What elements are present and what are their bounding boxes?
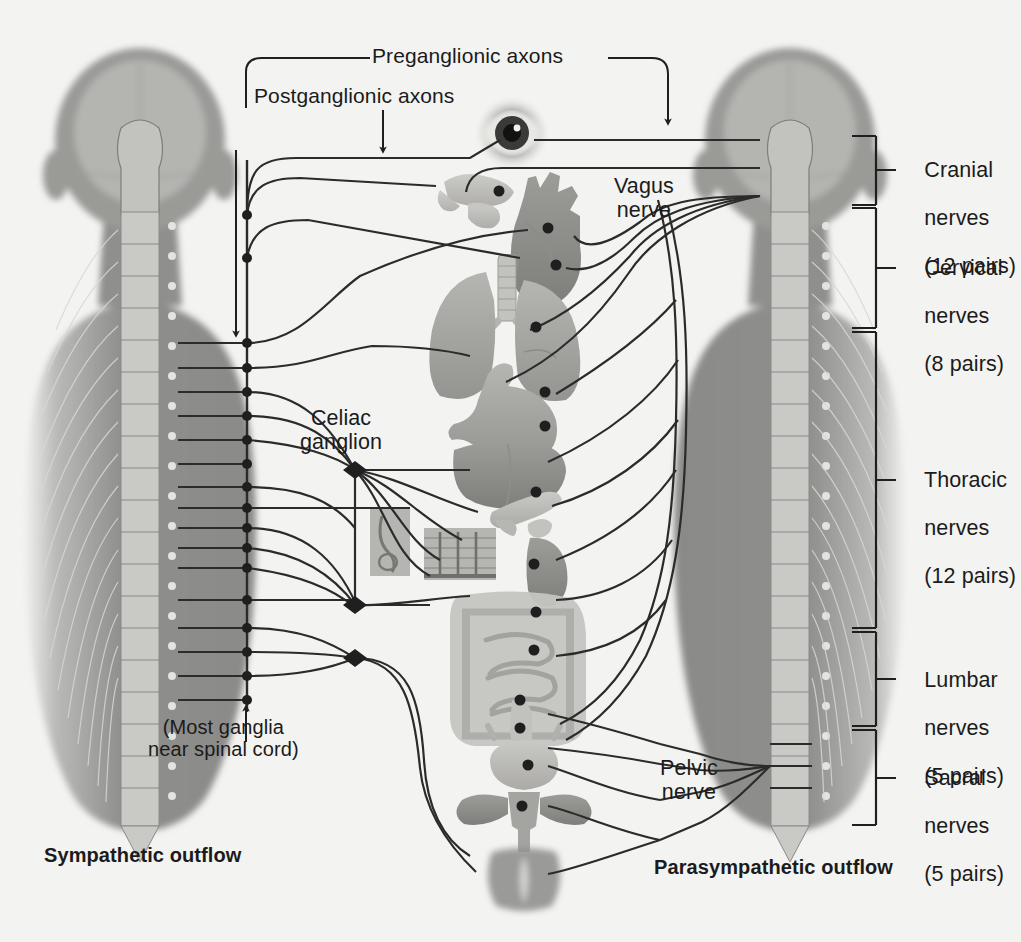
segment-line2-cranial: nerves [924,206,989,230]
segment-line2-lumbar: nerves [924,716,989,740]
organ-skin-inset-right [424,528,496,580]
label-vagus-nerve: Vagus nerve [614,174,674,222]
segment-name-cervical: Cervical [924,256,1002,280]
label-pelvic-nerve: Pelvic nerve [660,756,718,804]
autonomic-nervous-system-figure: Preganglionic axons Postganglionic axons… [0,0,1021,942]
segment-name-lumbar: Lumbar [924,668,998,692]
segment-line2-thoracic: nerves [924,516,989,540]
preganglionic-right-stem [608,58,668,122]
segment-name-sacral: Sacral [924,766,986,790]
parasympathetic-body [674,48,906,862]
spinal-cord-left [121,212,159,862]
organ-skin-inset-left [370,508,410,576]
segment-line2-sacral: nerves [924,814,989,838]
label-preganglionic-axons: Preganglionic axons [372,44,563,68]
segment-pairs-sacral: (5 pairs) [924,862,1004,886]
diagram-canvas [0,0,1021,942]
footer-sympathetic-outflow: Sympathetic outflow [44,844,241,866]
organ-salivary-glands [438,174,514,228]
segment-line2-cervical: nerves [924,304,989,328]
segment-label-thoracic: Thoracic nerves (12 pairs) [900,444,1016,613]
footer-parasympathetic-outflow: Parasympathetic outflow [654,856,893,878]
label-celiac-ganglion: Celiac ganglion [300,406,382,454]
segment-pairs-thoracic: (12 pairs) [924,564,1016,588]
label-most-ganglia-note: (Most ganglia near spinal cord) [148,716,299,761]
segment-label-cervical: Cervical nerves (8 pairs) [900,232,1004,401]
segment-name-cranial: Cranial [924,158,993,182]
segment-label-sacral: Sacral nerves (5 pairs) [900,742,1004,911]
segment-pairs-cervical: (8 pairs) [924,352,1004,376]
organ-eye [474,95,550,171]
organ-genitals [488,848,560,911]
segment-name-thoracic: Thoracic [924,468,1007,492]
label-postganglionic-axons: Postganglionic axons [254,84,454,108]
spinal-cord-right [771,212,809,862]
